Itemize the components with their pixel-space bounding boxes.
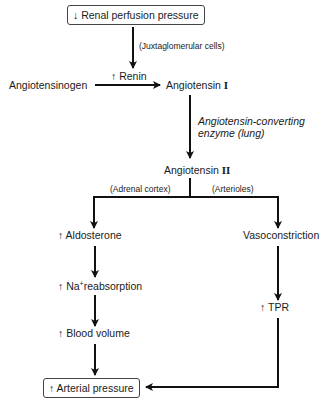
angiotensinogen-label: Angiotensinogen (9, 79, 87, 91)
aldosterone-label: ↑ Aldosterone (58, 229, 122, 241)
connector-arrows (0, 0, 324, 402)
arterial-pressure-label: Arterial pressure (57, 382, 134, 394)
renal-perfusion-pressure-box: ↓ Renal perfusion pressure (67, 5, 205, 25)
increase-arrow-icon: ↑ (260, 301, 265, 313)
arterioles-label: (Arterioles) (212, 183, 254, 195)
na-reabsorption-label: ↑ Na+reabsorption (58, 278, 142, 292)
increase-arrow-icon: ↑ (49, 382, 54, 394)
decrease-arrow-icon: ↓ (73, 9, 78, 21)
arterial-pressure-box: ↑ Arterial pressure (43, 378, 140, 398)
increase-arrow-icon: ↑ (58, 327, 63, 339)
ace-label-line2: enzyme (lung) (198, 127, 265, 139)
renin-label: ↑ Renin (111, 70, 147, 82)
vasoconstriction-label: Vasoconstriction (243, 229, 319, 241)
angiotensin-1-label: Angiotensin I (166, 79, 228, 91)
angiotensin-2-label: Angiotensin II (164, 164, 230, 176)
juxtaglomerular-cells-label: (Juxtaglomerular cells) (139, 40, 225, 52)
increase-arrow-icon: ↑ (58, 229, 63, 241)
ace-label-line1: Angiotensin-converting (198, 115, 305, 127)
renal-perfusion-label: Renal perfusion pressure (81, 9, 198, 21)
increase-arrow-icon: ↑ (58, 280, 63, 292)
adrenal-cortex-label: (Adrenal cortex) (110, 183, 170, 195)
tpr-label: ↑ TPR (260, 301, 289, 313)
increase-arrow-icon: ↑ (111, 70, 116, 82)
blood-volume-label: ↑ Blood volume (58, 327, 130, 339)
